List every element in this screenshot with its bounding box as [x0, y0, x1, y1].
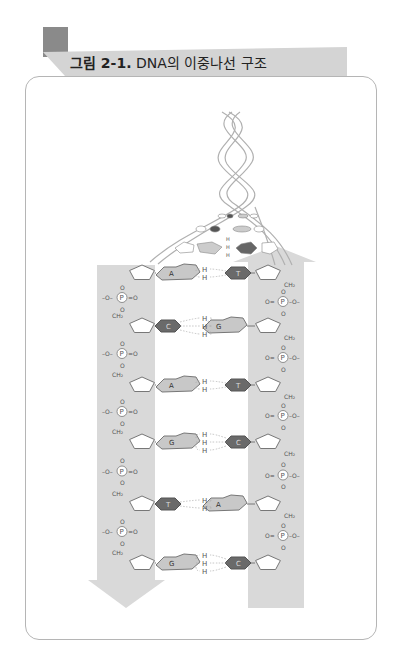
- svg-text:–O–: –O–: [289, 298, 300, 305]
- svg-text:P: P: [281, 354, 285, 362]
- ch2-label: CH₂: [112, 312, 124, 319]
- svg-text:O: O: [120, 284, 125, 291]
- svg-text:O=: O=: [265, 412, 275, 419]
- hydrogen-bond-label: H: [202, 505, 207, 513]
- svg-text:O: O: [120, 479, 125, 486]
- svg-text:O: O: [281, 344, 286, 351]
- ch2-label: CH₂: [112, 490, 124, 497]
- ch2-label: CH₂: [112, 549, 124, 556]
- base-right-G: G: [203, 317, 247, 333]
- ch2-label: CH₂: [284, 393, 296, 400]
- svg-text:O: O: [120, 398, 125, 405]
- svg-text:O: O: [281, 424, 286, 431]
- svg-text:O=: O=: [265, 298, 275, 305]
- svg-text:H: H: [226, 252, 230, 258]
- svg-text:O: O: [281, 544, 286, 551]
- svg-text:=O: =O: [128, 294, 138, 301]
- base-right-T: T: [225, 267, 251, 279]
- svg-text:O: O: [281, 461, 286, 468]
- svg-text:O: O: [281, 366, 286, 373]
- svg-text:P: P: [281, 298, 285, 306]
- svg-text:=O: =O: [128, 528, 138, 535]
- base-right-A: A: [203, 495, 247, 511]
- svg-text:–O–: –O–: [102, 294, 113, 301]
- ch2-label: CH₂: [284, 281, 296, 288]
- dna-double-helix-diagram: H H H ATHHCGHHHATHHGCHHHTAHHGCHHH P–O–=O…: [0, 0, 395, 668]
- hydrogen-bond-label: H: [202, 439, 207, 447]
- svg-text:–O–: –O–: [102, 350, 113, 357]
- svg-text:O=: O=: [265, 354, 275, 361]
- svg-text:O: O: [281, 522, 286, 529]
- base-right-C: C: [225, 436, 251, 448]
- svg-text:G: G: [216, 323, 221, 331]
- svg-text:P: P: [281, 532, 285, 540]
- base-left-T: T: [155, 498, 181, 510]
- svg-text:A: A: [169, 382, 174, 390]
- hydrogen-bond-label: H: [202, 497, 207, 505]
- hydrogen-bond-label: H: [202, 568, 207, 576]
- svg-text:P: P: [120, 350, 124, 358]
- svg-text:–O–: –O–: [102, 528, 113, 535]
- svg-text:P: P: [120, 294, 124, 302]
- svg-text:P: P: [120, 408, 124, 416]
- svg-text:T: T: [165, 501, 171, 509]
- hydrogen-bond-label: H: [202, 552, 207, 560]
- svg-text:O: O: [120, 420, 125, 427]
- svg-text:P: P: [120, 468, 124, 476]
- svg-text:H: H: [226, 244, 230, 250]
- ch2-label: CH₂: [112, 428, 124, 435]
- hydrogen-bond-label: H: [202, 331, 207, 339]
- svg-text:–O–: –O–: [289, 412, 300, 419]
- svg-text:O: O: [120, 540, 125, 547]
- svg-text:O: O: [120, 457, 125, 464]
- svg-text:–O–: –O–: [289, 532, 300, 539]
- svg-text:O=: O=: [265, 472, 275, 479]
- hydrogen-bond-label: H: [202, 315, 207, 323]
- hydrogen-bond-label: H: [202, 323, 207, 331]
- left-strand-arrow: [88, 265, 165, 608]
- svg-text:O: O: [281, 402, 286, 409]
- svg-text:G: G: [169, 560, 174, 568]
- svg-text:G: G: [169, 439, 174, 447]
- base-left-G: G: [156, 554, 200, 570]
- svg-text:–O–: –O–: [102, 408, 113, 415]
- hydrogen-bond-label: H: [202, 266, 207, 274]
- svg-text:T: T: [235, 382, 241, 390]
- svg-text:–O–: –O–: [102, 468, 113, 475]
- svg-text:A: A: [169, 270, 174, 278]
- base-right-T: T: [225, 379, 251, 391]
- svg-text:P: P: [120, 528, 124, 536]
- svg-text:P: P: [281, 472, 285, 480]
- svg-text:=O: =O: [128, 408, 138, 415]
- svg-text:C: C: [236, 560, 241, 568]
- ch2-label: CH₂: [284, 334, 296, 341]
- hydrogen-bond-label: H: [202, 560, 207, 568]
- svg-text:–O–: –O–: [289, 354, 300, 361]
- base-left-A: A: [156, 264, 200, 280]
- base-left-A: A: [156, 376, 200, 392]
- ch2-label: CH₂: [284, 450, 296, 457]
- base-left-C: C: [155, 320, 181, 332]
- svg-text:O: O: [120, 340, 125, 347]
- svg-text:T: T: [235, 270, 241, 278]
- hydrogen-bond-label: H: [202, 274, 207, 282]
- base-left-G: G: [156, 433, 200, 449]
- svg-text:O: O: [120, 362, 125, 369]
- svg-text:=O: =O: [128, 350, 138, 357]
- ch2-label: CH₂: [284, 512, 296, 519]
- ch2-label: CH₂: [112, 371, 124, 378]
- svg-text:O: O: [281, 310, 286, 317]
- svg-text:O: O: [281, 483, 286, 490]
- svg-text:P: P: [281, 412, 285, 420]
- svg-text:H: H: [226, 236, 230, 242]
- svg-text:C: C: [236, 439, 241, 447]
- svg-text:=O: =O: [128, 468, 138, 475]
- base-right-C: C: [225, 557, 251, 569]
- svg-text:O: O: [281, 288, 286, 295]
- svg-text:O=: O=: [265, 532, 275, 539]
- hydrogen-bond-label: H: [202, 431, 207, 439]
- hydrogen-bond-label: H: [202, 447, 207, 455]
- svg-text:A: A: [216, 501, 221, 509]
- svg-text:C: C: [166, 323, 171, 331]
- helix-perspective-pairs: H H H: [175, 214, 278, 258]
